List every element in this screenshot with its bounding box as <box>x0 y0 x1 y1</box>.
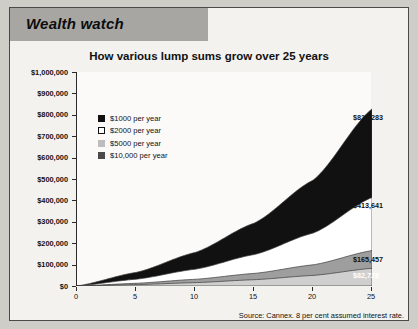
y-axis-label: $900,000 <box>8 89 68 98</box>
x-axis-tick <box>135 287 136 291</box>
source-note: Source: Cannex. 8 per cent assumed inter… <box>239 311 404 320</box>
x-axis-label: 10 <box>182 292 206 301</box>
x-axis-tick <box>76 287 77 291</box>
legend-item-label: $5000 per year <box>110 139 161 148</box>
data-callout: $165,457 <box>351 254 385 265</box>
chart-title: How various lump sums grow over 25 years <box>0 50 418 62</box>
y-axis-label: $1,000,000 <box>8 68 68 77</box>
data-callout: $82,728 <box>351 270 381 281</box>
legend-item-label: $1000 per year <box>110 114 161 123</box>
x-axis-tick <box>371 287 372 291</box>
y-axis-label: $800,000 <box>8 110 68 119</box>
legend-item-label: $10,000 per year <box>110 151 167 160</box>
y-axis-label: $0 <box>8 282 68 291</box>
x-axis-label: 5 <box>123 292 147 301</box>
y-axis-label: $500,000 <box>8 175 68 184</box>
legend-item: $10,000 per year <box>98 150 167 163</box>
y-axis-label: $300,000 <box>8 217 68 226</box>
stacked-area-series <box>77 72 372 286</box>
y-axis-label: $600,000 <box>8 153 68 162</box>
x-axis-label: 25 <box>359 292 383 301</box>
y-axis-label: $400,000 <box>8 196 68 205</box>
legend: $1000 per year$2000 per year$5000 per ye… <box>98 112 167 162</box>
page-root: Wealth watch How various lump sums grow … <box>0 0 418 329</box>
x-axis-label: 0 <box>64 292 88 301</box>
legend-swatch-white <box>98 127 105 134</box>
x-axis-label: 15 <box>241 292 265 301</box>
section-title: Wealth watch <box>26 15 124 32</box>
legend-swatch-dark-gray <box>98 152 105 159</box>
legend-item-label: $2000 per year <box>110 126 161 135</box>
y-axis-label: $700,000 <box>8 132 68 141</box>
legend-item: $2000 per year <box>98 125 167 138</box>
x-axis-tick <box>312 287 313 291</box>
y-axis-label: $200,000 <box>8 239 68 248</box>
data-callout: $827,283 <box>351 112 385 123</box>
x-axis-label: 20 <box>300 292 324 301</box>
x-axis-tick <box>253 287 254 291</box>
legend-item: $5000 per year <box>98 137 167 150</box>
legend-swatch-black <box>98 115 105 122</box>
legend-swatch-light-gray <box>98 140 105 147</box>
plot-area <box>76 72 371 286</box>
x-axis-tick <box>194 287 195 291</box>
y-axis-label: $100,000 <box>8 260 68 269</box>
legend-item: $1000 per year <box>98 112 167 125</box>
data-callout: $413,641 <box>351 200 385 211</box>
